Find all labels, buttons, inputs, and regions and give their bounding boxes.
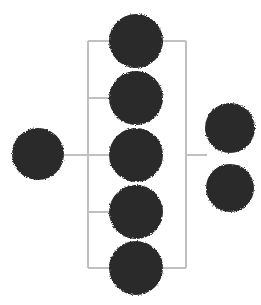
- node-cluster-4[interactable]: [109, 185, 163, 239]
- node-cluster-2-shape: [109, 71, 163, 125]
- node-cluster-5-shape: [109, 241, 163, 295]
- diagram-canvas: [0, 0, 261, 305]
- node-leaf-right-bot-shape: [206, 164, 254, 212]
- node-leaf-right-top[interactable]: [205, 103, 255, 153]
- node-leaf-right-bot[interactable]: [206, 164, 254, 212]
- nodes-layer: [12, 14, 255, 295]
- node-cluster-3[interactable]: [109, 128, 163, 182]
- diagram-svg: [0, 0, 261, 305]
- node-cluster-1[interactable]: [109, 14, 163, 68]
- node-cluster-4-shape: [109, 185, 163, 239]
- node-cluster-5[interactable]: [109, 241, 163, 295]
- node-cluster-3-shape: [109, 128, 163, 182]
- node-leaf-right-top-shape: [205, 103, 255, 153]
- node-cluster-1-shape: [109, 14, 163, 68]
- node-root-left[interactable]: [12, 128, 64, 180]
- node-cluster-2[interactable]: [109, 71, 163, 125]
- node-root-left-shape: [12, 128, 64, 180]
